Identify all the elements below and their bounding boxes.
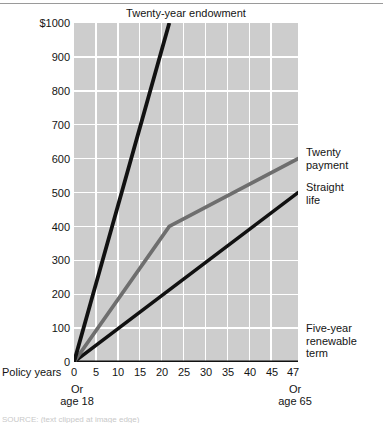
y-tick-500: 500 bbox=[2, 188, 70, 199]
y-tick-800: 800 bbox=[2, 86, 70, 97]
y-axis-labels: $1000 900 800 700 600 500 400 300 200 10… bbox=[0, 0, 70, 423]
x-tick-15: 15 bbox=[129, 367, 151, 378]
x-tick-47: 47 bbox=[282, 367, 304, 378]
series-label-straight-life-line1: Straight bbox=[306, 181, 344, 194]
age-note-left-line1: Or bbox=[71, 383, 83, 395]
series-label-five-year-renewable-term: Five-year renewable term bbox=[306, 322, 357, 360]
age-note-right-line2: age 65 bbox=[255, 395, 335, 407]
x-tick-25: 25 bbox=[173, 367, 195, 378]
source-note-clipped: SOURCE: (text clipped at image edge) bbox=[2, 415, 381, 423]
y-tick-200: 200 bbox=[2, 289, 70, 300]
age-note-left-line2: age 18 bbox=[37, 395, 117, 407]
series-label-twenty-payment: Twenty payment bbox=[306, 146, 348, 171]
x-tick-30: 30 bbox=[195, 367, 217, 378]
y-tick-700: 700 bbox=[2, 120, 70, 131]
x-tick-35: 35 bbox=[217, 367, 239, 378]
x-tick-5: 5 bbox=[85, 367, 107, 378]
x-tick-40: 40 bbox=[239, 367, 261, 378]
series-label-five-year-term-line3: term bbox=[306, 347, 357, 360]
x-tick-45: 45 bbox=[261, 367, 283, 378]
x-axis-caption: Policy years bbox=[2, 367, 61, 378]
series-label-five-year-term-line1: Five-year bbox=[306, 322, 357, 335]
plot-area bbox=[74, 23, 298, 362]
y-tick-300: 300 bbox=[2, 255, 70, 266]
age-note-left: Or age 18 bbox=[37, 383, 117, 407]
x-tick-20: 20 bbox=[151, 367, 173, 378]
y-tick-100: 100 bbox=[2, 323, 70, 334]
y-tick-400: 400 bbox=[2, 222, 70, 233]
series-label-straight-life: Straight life bbox=[306, 181, 344, 206]
y-tick-900: 900 bbox=[2, 52, 70, 63]
plot-svg bbox=[74, 23, 298, 362]
chart-title: Twenty-year endowment bbox=[74, 7, 298, 20]
series-label-twenty-payment-line1: Twenty bbox=[306, 146, 348, 159]
series-label-straight-life-line2: life bbox=[306, 194, 344, 207]
x-tick-10: 10 bbox=[107, 367, 129, 378]
horizontal-gridlines bbox=[74, 57, 298, 328]
series-label-twenty-payment-line2: payment bbox=[306, 159, 348, 172]
y-tick-600: 600 bbox=[2, 154, 70, 165]
x-tick-0: 0 bbox=[63, 367, 85, 378]
series-label-five-year-term-line2: renewable bbox=[306, 335, 357, 348]
age-note-right-line1: Or bbox=[289, 383, 301, 395]
chart-page: Twenty-year endowment bbox=[0, 0, 383, 423]
y-tick-1000: $1000 bbox=[2, 18, 70, 29]
age-note-right: Or age 65 bbox=[255, 383, 335, 407]
